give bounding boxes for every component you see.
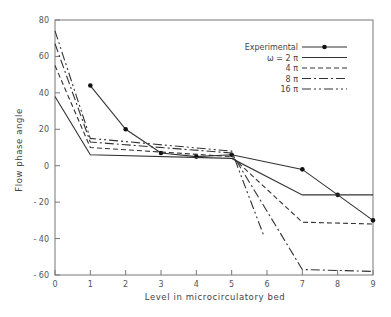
x-tick-label: 8: [335, 280, 340, 289]
legend: Experimentalω = 2 π4 π8 π16 π: [245, 43, 347, 94]
legend-label: 4 π: [286, 64, 299, 73]
x-tick-label: 2: [123, 280, 128, 289]
legend-label: 8 π: [286, 75, 299, 84]
x-tick-label: 6: [264, 280, 269, 289]
data-point-marker: [300, 167, 305, 172]
y-tick-label: 60: [39, 52, 49, 61]
data-point-marker: [194, 154, 199, 159]
legend-label: Experimental: [245, 43, 298, 52]
x-tick-label: 0: [52, 280, 57, 289]
series-line-1: [55, 97, 373, 195]
legend-label: 16 π: [280, 85, 298, 94]
y-tick-label: - 60: [33, 271, 49, 280]
y-tick-label: - 40: [33, 235, 49, 244]
x-tick-label: 7: [300, 280, 305, 289]
y-axis: 806040200- 20- 40- 60: [33, 16, 60, 280]
y-tick-label: 40: [39, 89, 49, 98]
x-tick-label: 1: [88, 280, 93, 289]
legend-marker: [322, 45, 327, 50]
x-tick-label: 5: [229, 280, 234, 289]
x-axis: 0123456789: [52, 270, 375, 289]
y-tick-label: - 20: [33, 198, 49, 207]
y-tick-label: 20: [39, 125, 49, 134]
x-axis-title: Level in microcirculatory bed: [145, 292, 286, 302]
line-chart: 806040200- 20- 40- 60 0123456789 Experim…: [0, 0, 391, 317]
data-series: [55, 31, 375, 272]
y-tick-label: 0: [44, 162, 49, 171]
data-point-marker: [123, 127, 128, 132]
plot-frame: [55, 20, 373, 275]
series-line-4: [55, 31, 264, 235]
data-point-marker: [88, 83, 93, 88]
data-point-marker: [371, 218, 376, 223]
legend-label: ω = 2 π: [267, 54, 298, 63]
x-tick-label: 4: [194, 280, 199, 289]
y-tick-label: 80: [39, 16, 49, 25]
y-axis-title: Flow phase angle: [14, 108, 24, 192]
x-tick-label: 9: [370, 280, 375, 289]
x-tick-label: 3: [158, 280, 163, 289]
data-point-marker: [159, 151, 164, 156]
